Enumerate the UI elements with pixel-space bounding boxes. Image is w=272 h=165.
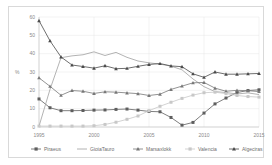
data-point-marker <box>37 19 41 22</box>
data-point-marker <box>126 118 129 121</box>
data-point-marker <box>170 116 173 119</box>
data-point-marker <box>82 125 85 128</box>
data-point-marker <box>60 125 63 128</box>
data-point-marker <box>115 121 118 124</box>
data-point-marker <box>170 101 173 104</box>
data-point-marker <box>60 109 63 112</box>
data-point-marker <box>225 97 228 100</box>
data-point-marker <box>247 95 250 98</box>
chart-legend: PiraeusGioiaTauroMarsaxlokkValenciaAlgec… <box>31 146 263 152</box>
data-point-marker <box>137 109 140 112</box>
data-point-marker <box>148 109 151 112</box>
y-axis-tick-label: 10 <box>29 105 35 111</box>
legend-label-valencia[interactable]: Valencia <box>198 146 217 152</box>
y-axis-tick-label: 50 <box>29 32 35 38</box>
data-point-marker <box>213 86 217 89</box>
y-axis-tick-label: 30 <box>29 69 35 75</box>
data-point-marker <box>159 105 162 108</box>
data-point-marker <box>236 94 239 97</box>
legend-label-piraeus[interactable]: Piraeus <box>44 146 61 152</box>
data-point-marker <box>93 109 96 112</box>
data-point-marker <box>137 115 140 118</box>
data-point-marker <box>225 92 228 95</box>
x-axis-tick-label: 2010 <box>198 132 209 138</box>
data-point-marker <box>71 109 74 112</box>
y-axis-tick-label: 0 <box>32 124 35 130</box>
legend-marker-piraeus <box>35 147 38 150</box>
x-axis-tick-label: 2000 <box>88 132 99 138</box>
line-chart: 010203040506019952000200520102015%Piraeu… <box>9 7 265 159</box>
data-point-marker <box>214 91 217 94</box>
data-point-marker <box>203 112 206 115</box>
data-point-marker <box>181 124 184 127</box>
data-point-marker <box>38 125 41 128</box>
data-point-marker <box>104 123 107 126</box>
chart-plot-area: 010203040506019952000200520102015%Piraeu… <box>9 7 265 159</box>
legend-label-gioiatauro[interactable]: GioiaTauro <box>90 146 114 152</box>
data-point-marker <box>191 72 195 75</box>
x-axis-tick-label: 1995 <box>33 132 44 138</box>
data-point-marker <box>82 109 85 112</box>
data-point-marker <box>93 124 96 127</box>
x-axis-tick-label: 2015 <box>253 132 264 138</box>
data-point-marker <box>49 106 52 109</box>
data-point-marker <box>192 94 195 97</box>
data-point-marker <box>258 96 261 99</box>
data-point-marker <box>104 108 107 111</box>
data-point-marker <box>192 121 195 124</box>
y-axis-tick-label: 20 <box>29 87 35 93</box>
data-point-marker <box>159 110 162 113</box>
legend-label-algeciras[interactable]: Algeciras <box>242 146 263 152</box>
y-axis-tick-label: 60 <box>29 14 35 20</box>
data-point-marker <box>203 91 206 94</box>
data-point-marker <box>38 97 41 100</box>
data-point-marker <box>37 76 41 79</box>
x-axis-tick-label: 2005 <box>143 132 154 138</box>
data-point-marker <box>48 39 52 42</box>
y-axis-title: % <box>15 69 20 75</box>
data-point-marker <box>214 102 217 105</box>
data-point-marker <box>115 108 118 111</box>
data-point-marker <box>181 97 184 100</box>
data-point-marker <box>49 125 52 128</box>
chart-card: 010203040506019952000200520102015%Piraeu… <box>8 6 264 158</box>
legend-marker-valencia <box>189 147 192 150</box>
data-point-marker <box>103 64 107 67</box>
legend-label-marsaxlokk[interactable]: Marsaxlokk <box>146 146 172 152</box>
y-axis-tick-label: 40 <box>29 50 35 56</box>
data-point-marker <box>71 125 74 128</box>
data-point-marker <box>126 108 129 111</box>
